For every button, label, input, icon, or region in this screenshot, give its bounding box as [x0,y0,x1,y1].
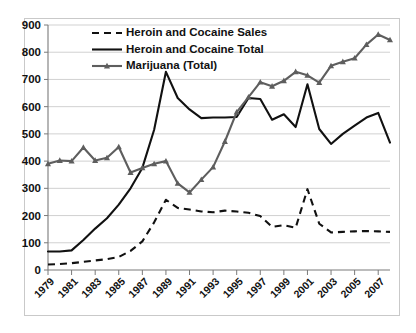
y-tick-label: 800 [22,46,41,58]
series-2 [48,72,390,252]
data-point-marker [375,31,381,37]
data-point-marker [116,144,122,150]
x-tick-label: 1987 [126,275,151,300]
legend-label: Heroin and Cocaine Sales [126,26,267,38]
y-tick-label: 300 [22,182,41,194]
legend-label: Marijuana (Total) [126,59,217,71]
y-tick-label: 0 [35,264,41,276]
chart-figure: 0100200300400500600700800900 19791981198… [0,0,416,333]
line-chart: 0100200300400500600700800900 19791981198… [0,0,416,333]
y-tick-marks [44,25,48,270]
x-tick-label: 2005 [338,275,363,300]
y-tick-label: 500 [22,128,41,140]
legend-item: Heroin and Cocaine Total [92,43,264,55]
series-line [48,35,390,193]
x-tick-label: 1979 [31,275,56,300]
x-tick-labels: 1979198119831985198719891991199319951997… [31,275,386,300]
x-tick-label: 1997 [244,275,269,300]
y-tick-label: 200 [22,210,41,222]
x-tick-label: 2007 [362,275,387,300]
x-tick-label: 1999 [267,275,292,300]
data-point-marker [222,138,228,144]
y-tick-labels: 0100200300400500600700800900 [22,19,41,276]
x-tick-marks [48,270,378,275]
y-tick-label: 600 [22,101,41,113]
series-line [48,189,390,264]
series-3 [45,31,393,194]
series-line [48,72,390,252]
x-tick-label: 1989 [149,275,174,300]
x-tick-label: 1995 [220,275,245,300]
x-tick-label: 1983 [79,275,104,300]
chart-legend: Heroin and Cocaine SalesHeroin and Cocai… [92,26,267,71]
x-tick-label: 2001 [291,275,316,300]
gridlines [48,25,390,243]
data-point-marker [80,144,86,150]
legend-label: Heroin and Cocaine Total [126,43,264,55]
y-tick-label: 400 [22,155,41,167]
x-tick-label: 2003 [314,275,339,300]
axis-lines [48,25,390,270]
legend-item: Heroin and Cocaine Sales [92,26,267,38]
x-tick-label: 1981 [55,275,80,300]
y-tick-label: 100 [22,237,41,249]
x-tick-label: 1991 [173,275,198,300]
x-tick-label: 1993 [197,275,222,300]
legend-item: Marijuana (Total) [92,59,217,71]
series-1 [48,189,390,264]
x-tick-label: 1985 [102,275,127,300]
y-tick-label: 700 [22,73,41,85]
y-tick-label: 900 [22,19,41,31]
data-point-marker [257,79,263,85]
